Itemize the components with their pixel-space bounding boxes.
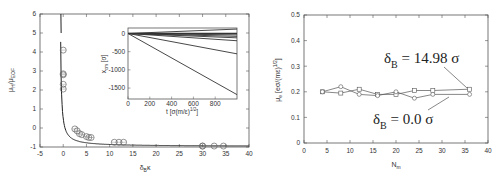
x-tick-label: 5 bbox=[85, 150, 89, 157]
circle-marker bbox=[320, 90, 324, 94]
inset-y-tick-label: -500 bbox=[112, 48, 125, 55]
x-tick-label: 40 bbox=[245, 150, 253, 157]
figure: -50510152025303540 -10123456 μH/μEOF δBκ… bbox=[0, 0, 504, 181]
circle-marker bbox=[357, 92, 361, 96]
legend-label-14-98: δB = 14.98 σ bbox=[384, 50, 459, 70]
x-tick-label: -5 bbox=[37, 150, 43, 157]
y-tick-label: -1 bbox=[30, 143, 36, 150]
inset-y-tick-label: -1500 bbox=[108, 84, 125, 91]
x-tick-label: 10 bbox=[346, 147, 354, 154]
y-tick-label: 0.1 bbox=[291, 114, 300, 121]
circle-marker bbox=[431, 92, 435, 96]
x-tick-label: 25 bbox=[176, 150, 184, 157]
legend-pointer-0-0 bbox=[428, 97, 449, 110]
inset-y-ticks: 0-500-1000-1500 bbox=[108, 30, 130, 92]
x-tick-label: 40 bbox=[484, 147, 492, 154]
legend-pointer-14-98 bbox=[444, 67, 467, 88]
y-tick-label: 0.3 bbox=[291, 63, 300, 70]
y-tick-label: 0.4 bbox=[291, 37, 300, 44]
right-y-axis-label: μe [eσ/(mε)1/2] bbox=[272, 58, 283, 101]
circle-marker bbox=[376, 94, 380, 98]
y-tick-label: 0 bbox=[296, 139, 300, 146]
square-marker bbox=[431, 89, 435, 93]
x-tick-label: 30 bbox=[199, 150, 207, 157]
circle-marker bbox=[394, 90, 398, 94]
x-tick-label: 25 bbox=[415, 147, 423, 154]
inset-x-tick-label: 200 bbox=[144, 100, 155, 107]
circle-marker bbox=[412, 96, 416, 100]
left-plot: -50510152025303540 -10123456 μH/μEOF δBκ… bbox=[7, 10, 253, 172]
x-tick-label: 35 bbox=[461, 147, 469, 154]
y-tick-label: 0.5 bbox=[291, 11, 300, 18]
right-plot: 0510152025303540 00.10.20.30.40.5 μe [eσ… bbox=[272, 11, 492, 169]
y-tick-label: 6 bbox=[32, 10, 36, 17]
left-y-axis-label: μH/μEOF bbox=[7, 68, 16, 92]
inset-frame bbox=[128, 28, 237, 99]
circle-marker bbox=[339, 85, 343, 89]
x-tick-label: 15 bbox=[129, 150, 137, 157]
inset-y-tick-label: -1000 bbox=[108, 66, 125, 73]
x-tick-label: 5 bbox=[325, 147, 329, 154]
x-tick-label: 30 bbox=[438, 147, 446, 154]
inset-x-tick-label: 0 bbox=[126, 100, 130, 107]
inset-x-tick-label: 400 bbox=[166, 100, 177, 107]
x-tick-label: 35 bbox=[222, 150, 230, 157]
y-tick-label: 0.2 bbox=[291, 88, 300, 95]
y-tick-label: 2 bbox=[32, 86, 36, 93]
right-series bbox=[320, 85, 471, 101]
x-tick-label: 20 bbox=[392, 147, 400, 154]
inset-x-tick-label: 600 bbox=[188, 100, 199, 107]
x-tick-label: 0 bbox=[302, 147, 306, 154]
inset-y-tick-label: 0 bbox=[121, 30, 125, 37]
inset-y-axis-label: xcm [σ] bbox=[100, 54, 109, 73]
square-marker bbox=[339, 91, 343, 95]
inset-plot: 0200400600800 0-500-1000-1500 xcm [σ] t … bbox=[100, 28, 237, 116]
circle-marker bbox=[468, 92, 472, 96]
inset-x-axis-label: t [σ(m/ε)1/2] bbox=[166, 107, 198, 116]
inset-x-tick-label: 800 bbox=[210, 100, 221, 107]
y-tick-label: 4 bbox=[32, 48, 36, 55]
square-marker bbox=[412, 89, 416, 93]
x-tick-label: 20 bbox=[152, 150, 160, 157]
y-tick-label: 0 bbox=[32, 124, 36, 131]
x-tick-label: 15 bbox=[369, 147, 377, 154]
square-marker bbox=[468, 87, 472, 91]
right-x-axis-label: Nm bbox=[391, 161, 400, 170]
legend-label-0-0: δB = 0.0 σ bbox=[373, 111, 433, 131]
square-marker bbox=[357, 87, 361, 91]
y-tick-label: 5 bbox=[32, 29, 36, 36]
y-tick-label: 3 bbox=[32, 67, 36, 74]
x-tick-label: 0 bbox=[61, 150, 65, 157]
y-tick-label: 1 bbox=[32, 105, 36, 112]
x-tick-label: 10 bbox=[106, 150, 114, 157]
left-x-axis-label: δBκ bbox=[140, 164, 151, 173]
